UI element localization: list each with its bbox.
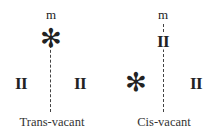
diagram-caption: Cis-vacant [137, 116, 190, 129]
left-site-label: II [15, 75, 27, 92]
mirror-label: m [46, 8, 56, 21]
right-site-label: II [190, 75, 202, 92]
diagram-caption: Trans-vacant [20, 116, 85, 129]
vacant-site-asterisk-icon: ✻ [125, 69, 147, 95]
vacant-site-asterisk-icon: ✻ [40, 25, 62, 51]
top-site-label: II [157, 33, 169, 50]
mirror-label: m [158, 8, 168, 21]
right-site-label: II [74, 75, 86, 92]
